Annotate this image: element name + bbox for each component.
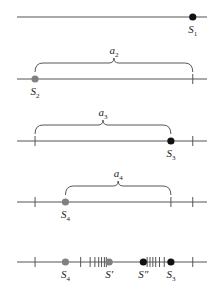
point-label: S′ xyxy=(105,268,114,280)
point-S3 xyxy=(167,258,174,265)
interval-label-a2: a2 xyxy=(109,44,119,59)
point-S xyxy=(106,258,113,265)
point-S4 xyxy=(62,198,69,205)
interval-label-a4: a4 xyxy=(114,167,124,182)
point-S3 xyxy=(167,137,174,144)
point-label: S3 xyxy=(166,147,176,162)
point-S xyxy=(140,258,147,265)
point-label: S1 xyxy=(188,23,198,38)
point-label: S2 xyxy=(31,85,41,100)
point-S4 xyxy=(62,258,69,265)
interval-brace-a4 xyxy=(65,181,170,195)
point-label: S″ xyxy=(138,268,149,280)
interval-brace-a3 xyxy=(35,120,171,134)
point-label: S4 xyxy=(61,208,71,223)
point-label: S3 xyxy=(166,268,176,283)
interval-label-a3: a3 xyxy=(98,106,108,121)
point-S1 xyxy=(189,13,196,20)
point-label: S4 xyxy=(61,268,71,283)
interval-brace-a2 xyxy=(35,58,193,72)
nested-intervals-diagram: S1a2S2a3S3a4S4S4S′S″S3 xyxy=(0,0,220,295)
point-S2 xyxy=(31,75,38,82)
